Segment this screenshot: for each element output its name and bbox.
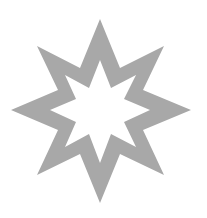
star-outline-shape: [11, 19, 191, 203]
star-canvas: [0, 0, 207, 218]
star-icon: [0, 0, 207, 218]
